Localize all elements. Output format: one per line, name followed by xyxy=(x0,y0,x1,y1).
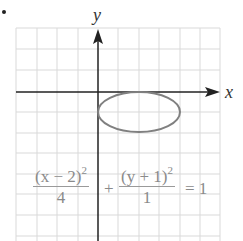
term2-denominator: 1 xyxy=(119,189,175,206)
fraction-term-2: (y + 1)2 1 xyxy=(119,168,175,206)
term1-numerator: (x − 2) xyxy=(35,167,81,186)
fraction-bar-2 xyxy=(119,186,175,187)
ellipse-equation: (x − 2)2 4 + (y + 1)2 1 = 1 xyxy=(0,0,243,241)
term1-exponent: 2 xyxy=(81,164,87,176)
plus-sign: + xyxy=(104,180,114,197)
term2-numerator: (y + 1) xyxy=(121,167,167,186)
term2-exponent: 2 xyxy=(167,164,173,176)
term1-denominator: 4 xyxy=(33,189,89,206)
fraction-term-1: (x − 2)2 4 xyxy=(33,168,89,206)
fraction-bar-1 xyxy=(33,186,89,187)
equals-one: = 1 xyxy=(185,180,207,197)
